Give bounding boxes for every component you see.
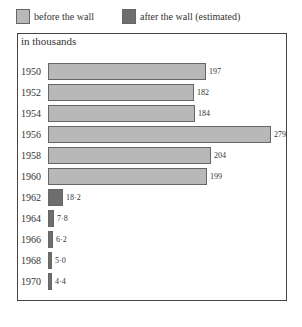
value-label: 7·8 (57, 214, 68, 223)
bar-after (48, 210, 54, 227)
bar-before (48, 63, 206, 80)
year-label: 1968 (21, 255, 41, 266)
chart-legend: before the wall after the wall (estimate… (16, 7, 268, 25)
value-label: 5·0 (55, 256, 66, 265)
legend-item-before: before the wall (16, 9, 94, 24)
bar-row: 1954184 (18, 105, 286, 123)
bar-row: 1950197 (18, 63, 286, 81)
value-label: 204 (214, 151, 226, 160)
bar-before (48, 84, 194, 101)
bar-after (48, 189, 63, 206)
bar-after (48, 273, 52, 290)
legend-label-before: before the wall (34, 11, 94, 22)
bar-row: 19685·0 (18, 252, 286, 270)
year-label: 1964 (21, 213, 41, 224)
value-label: 184 (198, 109, 210, 118)
year-label: 1952 (21, 87, 41, 98)
bar-row: 19666·2 (18, 231, 286, 249)
year-label: 1966 (21, 234, 41, 245)
year-label: 1970 (21, 276, 41, 287)
value-label: 197 (209, 67, 221, 76)
bar-after (48, 252, 52, 269)
bar-before (48, 126, 271, 143)
bar-before (48, 105, 195, 122)
year-label: 1950 (21, 66, 41, 77)
chart-frame: in thousands 195019719521821954184195627… (17, 33, 287, 301)
legend-swatch-before (16, 9, 30, 24)
year-label: 1958 (21, 150, 41, 161)
year-label: 1962 (21, 192, 41, 203)
year-label: 1954 (21, 108, 41, 119)
unit-label: in thousands (21, 35, 76, 47)
bar-before (48, 168, 207, 185)
bar-after (48, 231, 53, 248)
bar-row: 1958204 (18, 147, 286, 165)
value-label: 18·2 (66, 193, 81, 202)
bar-row: 1956279 (18, 126, 286, 144)
legend-swatch-after (122, 9, 136, 24)
bar-row: 196218·2 (18, 189, 286, 207)
bar-row: 1960199 (18, 168, 286, 186)
year-label: 1960 (21, 171, 41, 182)
bar-row: 19647·8 (18, 210, 286, 228)
bar-row: 19704·4 (18, 273, 286, 291)
bar-before (48, 147, 211, 164)
legend-item-after: after the wall (estimated) (122, 9, 240, 24)
year-label: 1956 (21, 129, 41, 140)
legend-label-after: after the wall (estimated) (140, 11, 240, 22)
bar-row: 1952182 (18, 84, 286, 102)
value-label: 279 (274, 130, 286, 139)
value-label: 199 (210, 172, 222, 181)
value-label: 182 (197, 88, 209, 97)
value-label: 6·2 (56, 235, 67, 244)
value-label: 4·4 (55, 277, 66, 286)
